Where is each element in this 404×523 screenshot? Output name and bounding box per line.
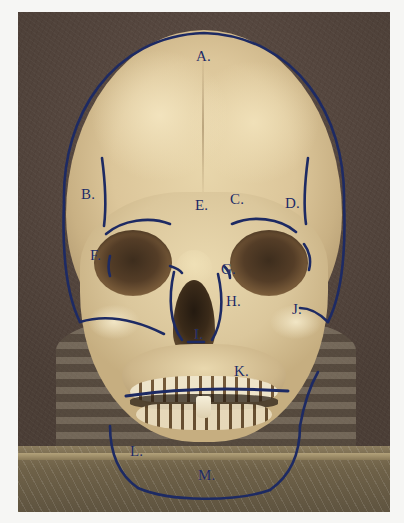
annotation-ink-layer [18,12,390,512]
page-margin-bottom [0,512,404,523]
left-lateral-orbital-mark [109,256,111,276]
label-h: H. [226,294,241,309]
page-margin-top [0,0,404,12]
label-g: G. [221,262,236,277]
label-e: E. [195,198,208,213]
right-lateral-orbital-arc [304,244,310,270]
mandible-ramus-right [300,372,318,426]
label-l: L. [130,444,143,459]
left-infraorbital-tick [170,266,182,273]
left-zygomatic-sweep [80,318,164,334]
label-b: B. [81,187,95,202]
right-temporal-stroke [305,158,308,224]
occlusal-line [126,389,288,396]
label-k: K. [234,364,249,379]
label-m: M. [198,468,216,483]
label-i: I. [194,327,203,342]
label-j: J. [292,302,302,317]
page-margin-left [0,0,18,523]
nasal-left-margin [171,272,182,340]
nasal-right-margin [212,274,221,340]
left-temporal-stroke [102,158,105,226]
figure-page: A. B. C. D. E. F. G. H. I. J. K. L. M. [0,0,404,523]
left-lateral-outline [64,202,80,322]
right-zygomatic-sweep [300,308,328,322]
left-supraorbital-arc [106,220,170,234]
right-supraorbital-arc [232,219,296,232]
page-margin-right [390,0,404,523]
mandible-right-outline [270,426,300,490]
label-f: F. [90,248,101,263]
mandible-inferior-outline [138,488,270,499]
label-d: D. [285,196,300,211]
label-c: C. [230,192,244,207]
label-a: A. [196,49,211,64]
skull-photograph: A. B. C. D. E. F. G. H. I. J. K. L. M. [18,12,390,512]
right-lateral-outline [328,202,344,322]
